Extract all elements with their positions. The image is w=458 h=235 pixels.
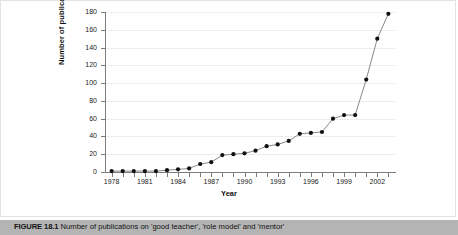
y-tick-label: 0 <box>63 168 97 175</box>
data-point <box>253 149 257 153</box>
x-tick <box>156 173 157 177</box>
data-point <box>154 169 158 173</box>
figure-caption-band: FIGURE 18.1 Number of publications on 'g… <box>0 220 458 235</box>
figure-container: Number of publications 02040608010012014… <box>0 0 458 235</box>
x-tick <box>267 173 268 177</box>
data-point <box>298 132 302 136</box>
x-tick <box>189 173 190 177</box>
data-point <box>265 144 269 148</box>
data-point <box>331 117 335 121</box>
data-point <box>110 169 114 173</box>
data-point <box>209 160 213 164</box>
x-tick <box>178 173 179 177</box>
x-tick <box>322 173 323 177</box>
x-tick <box>366 173 367 177</box>
y-tick-label: 120 <box>63 61 97 68</box>
data-point <box>287 139 291 143</box>
y-tick-label: 180 <box>63 8 97 15</box>
x-tick <box>256 173 257 177</box>
y-tick-label: 40 <box>63 132 97 139</box>
data-point <box>309 131 313 135</box>
x-tick-label: 1990 <box>228 178 262 185</box>
data-point <box>386 12 390 16</box>
x-tick <box>333 173 334 177</box>
y-tick-label: 140 <box>63 44 97 51</box>
x-tick <box>311 173 312 177</box>
data-point <box>176 167 180 171</box>
x-tick <box>233 173 234 177</box>
x-tick-label: 1981 <box>128 178 162 185</box>
data-point <box>132 169 136 173</box>
x-tick <box>211 173 212 177</box>
x-tick <box>388 173 389 177</box>
x-tick-label: 1993 <box>261 178 295 185</box>
y-tick-label: 160 <box>63 26 97 33</box>
figure-caption-text: Number of publications on 'good teacher'… <box>61 222 285 231</box>
figure-caption-label: FIGURE 18.1 <box>14 222 58 231</box>
data-point <box>121 169 125 173</box>
x-tick <box>355 173 356 177</box>
data-point <box>364 77 368 81</box>
x-tick <box>300 173 301 177</box>
x-tick <box>377 173 378 177</box>
x-axis-title: Year <box>1 189 457 198</box>
data-point <box>143 169 147 173</box>
x-tick <box>167 173 168 177</box>
data-point <box>342 113 346 117</box>
data-point <box>276 142 280 146</box>
x-tick <box>200 173 201 177</box>
x-tick-label: 1987 <box>194 178 228 185</box>
x-tick-label: 1978 <box>95 178 129 185</box>
x-tick <box>112 173 113 177</box>
x-tick <box>245 173 246 177</box>
data-point <box>231 152 235 156</box>
data-point <box>353 113 357 117</box>
y-axis-title-wrapper: Number of publications <box>61 21 73 161</box>
y-tick-label: 80 <box>63 97 97 104</box>
data-series <box>105 12 396 173</box>
data-point <box>242 151 246 155</box>
data-point <box>220 153 224 157</box>
series-line <box>112 14 389 171</box>
x-tick <box>145 173 146 177</box>
x-tick-label: 1999 <box>327 178 361 185</box>
x-tick-label: 2002 <box>360 178 394 185</box>
data-point <box>198 162 202 166</box>
data-point <box>165 168 169 172</box>
data-point <box>320 130 324 134</box>
y-tick-label: 60 <box>63 115 97 122</box>
x-tick <box>134 173 135 177</box>
x-tick <box>123 173 124 177</box>
x-tick <box>222 173 223 177</box>
data-point <box>187 166 191 170</box>
x-tick-label: 1996 <box>294 178 328 185</box>
x-tick <box>278 173 279 177</box>
y-tick-label: 20 <box>63 150 97 157</box>
figure-caption: FIGURE 18.1 Number of publications on 'g… <box>14 222 454 231</box>
y-tick-label: 100 <box>63 79 97 86</box>
x-tick-label: 1984 <box>161 178 195 185</box>
data-point <box>375 37 379 41</box>
chart-panel: Number of publications 02040608010012014… <box>0 0 456 217</box>
x-tick <box>344 173 345 177</box>
x-tick <box>289 173 290 177</box>
